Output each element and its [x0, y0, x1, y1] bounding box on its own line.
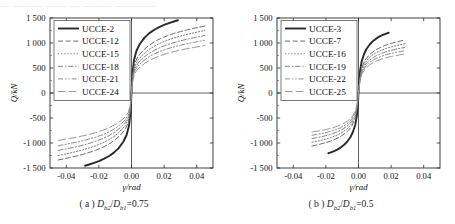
caption-a-numerator: D: [97, 199, 104, 209]
caption-a-denominator: D: [113, 199, 120, 209]
y-axis-tick-label: 1 000: [253, 38, 272, 48]
legend-label-ucce-15: UCCE-15: [82, 49, 119, 59]
legend-label-ucce-18: UCCE-18: [82, 62, 119, 72]
y-axis-label: Q/kN: [236, 83, 246, 103]
y-axis-tick-label: -1 000: [23, 138, 45, 148]
y-axis-tick-label: 1 000: [26, 38, 45, 48]
x-axis-tick-label: 0.00: [351, 171, 366, 181]
caption-a-prefix: ( a ): [79, 199, 94, 209]
x-axis-tick-label: -0.04: [284, 171, 303, 181]
y-axis-tick-label: 500: [260, 63, 273, 73]
legend-label-ucce-24: UCCE-24: [82, 87, 119, 97]
caption-b: ( b ) Db2/Db1=0.5: [227, 198, 455, 214]
y-axis-tick-label: -1 500: [23, 163, 45, 173]
y-axis-label: Q/kN: [9, 83, 19, 103]
x-axis-tick-label: 0.02: [384, 171, 399, 181]
legend-label-ucce-16: UCCE-16: [309, 49, 346, 59]
x-axis-tick-label: 0.04: [416, 171, 432, 181]
y-axis-tick-label: 0: [268, 88, 272, 98]
caption-a: ( a ) Db2/Db1=0.75: [0, 198, 228, 214]
legend-label-ucce-2: UCCE-2: [82, 24, 115, 34]
caption-b-numerator: D: [327, 199, 334, 209]
y-axis-tick-label: 0: [41, 88, 45, 98]
legend-label-ucce-12: UCCE-12: [82, 36, 119, 46]
x-axis-label: γ/rad: [122, 182, 141, 192]
legend-label-ucce-25: UCCE-25: [309, 87, 346, 97]
y-axis-tick-label: -1 000: [250, 138, 272, 148]
y-axis-tick-label: -500: [257, 113, 273, 123]
y-axis-tick-label: -500: [30, 113, 46, 123]
x-axis-tick-label: 0.04: [189, 171, 205, 181]
chart-panel-b: -1 500-1 000-50005001 0001 500-0.04-0.02…: [227, 0, 455, 224]
line-chart-b: -1 500-1 000-50005001 0001 500-0.04-0.02…: [227, 0, 455, 200]
caption-b-value: =0.5: [356, 199, 373, 209]
plot-area-b: -1 500-1 000-50005001 0001 500-0.04-0.02…: [227, 0, 455, 200]
x-axis-tick-label: 0.00: [124, 171, 139, 181]
plot-area-a: -1 500-1 000-50005001 0001 500-0.04-0.02…: [0, 0, 228, 200]
chart-panel-a: -1 500-1 000-50005001 0001 500-0.04-0.02…: [0, 0, 228, 224]
caption-b-denominator: D: [343, 199, 350, 209]
legend-label-ucce-22: UCCE-22: [309, 74, 346, 84]
legend-label-ucce-7: UCCE-7: [309, 36, 342, 46]
y-axis-tick-label: -1 500: [250, 163, 272, 173]
x-axis-tick-label: -0.02: [317, 171, 335, 181]
y-axis-tick-label: 1 500: [253, 13, 272, 23]
x-axis-tick-label: 0.02: [157, 171, 172, 181]
line-chart-a: -1 500-1 000-50005001 0001 500-0.04-0.02…: [0, 0, 228, 200]
y-axis-tick-label: 1 500: [26, 13, 45, 23]
y-axis-tick-label: 500: [33, 63, 46, 73]
caption-b-prefix: ( b ): [309, 199, 325, 209]
x-axis-label: γ/rad: [349, 182, 368, 192]
caption-a-value: =0.75: [127, 199, 149, 209]
x-axis-tick-label: -0.04: [57, 171, 76, 181]
legend-label-ucce-21: UCCE-21: [82, 74, 119, 84]
x-axis-tick-label: -0.02: [90, 171, 108, 181]
legend-label-ucce-3: UCCE-3: [309, 24, 342, 34]
figure-container: — ——— —— — ——— ———— -1 500-1 000-5000500…: [0, 0, 455, 224]
legend-label-ucce-19: UCCE-19: [309, 62, 346, 72]
